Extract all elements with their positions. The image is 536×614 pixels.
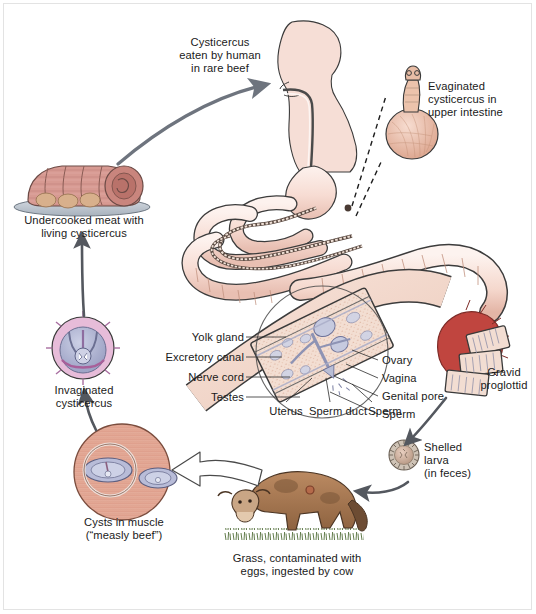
life-cycle-figure: Cysticercus eaten by human in rare beef … (0, 0, 536, 614)
anatomy-label-yolk-gland: Yolk gland (124, 331, 244, 344)
label-cysts-in-muscle: Cysts in muscle (“measly beef”) (62, 516, 186, 542)
anatomy-label-testes: Testes (124, 391, 244, 404)
anatomy-label-genital-pore: Genital pore (382, 390, 492, 403)
label-undercooked-meat: Undercooked meat with living cysticercus (14, 214, 154, 240)
anatomy-label-nerve-cord: Nerve cord (124, 371, 244, 384)
anatomy-label-sperm-bottom: Sperm (356, 405, 414, 418)
label-shelled-larva: Shelled larva (in feces) (424, 441, 502, 480)
anatomy-label-excretory-canal: Excretory canal (124, 351, 244, 364)
label-evaginated-cysticercus: Evaginated cysticercus in upper intestin… (428, 80, 532, 119)
anatomy-label-vagina: Vagina (382, 372, 492, 385)
label-grass-ingested-by-cow: Grass, contaminated with eggs, ingested … (208, 552, 386, 578)
anatomy-label-ovary: Ovary (382, 354, 492, 367)
label-cysticercus-eaten-by-human: Cysticercus eaten by human in rare beef (158, 36, 282, 75)
